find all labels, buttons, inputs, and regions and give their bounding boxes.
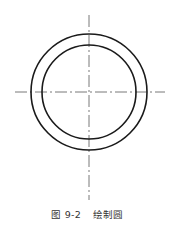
figure-title: 绘制圆 xyxy=(93,209,124,220)
figure-number: 图 9-2 xyxy=(51,209,81,220)
circle-drawing xyxy=(0,0,175,200)
figure-caption: 图 9-2绘制圆 xyxy=(0,207,175,221)
